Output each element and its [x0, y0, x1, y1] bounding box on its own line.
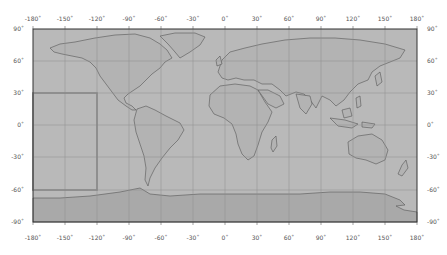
- svg-text:-30˚: -30˚: [187, 234, 200, 241]
- svg-text:60˚: 60˚: [13, 57, 24, 64]
- svg-text:-90˚: -90˚: [427, 218, 440, 225]
- svg-text:-60˚: -60˚: [155, 15, 168, 22]
- svg-text:-180˚: -180˚: [25, 15, 42, 22]
- svg-text:30˚: 30˚: [13, 89, 24, 96]
- y-labels-right: 90˚ 60˚ 30˚ 0˚ -30˚ -60˚ -90˚: [427, 25, 440, 225]
- svg-text:-60˚: -60˚: [11, 186, 24, 193]
- svg-text:150˚: 150˚: [378, 15, 392, 22]
- svg-text:-60˚: -60˚: [155, 234, 168, 241]
- svg-text:-180˚: -180˚: [25, 234, 42, 241]
- svg-text:-90˚: -90˚: [123, 15, 136, 22]
- svg-text:0˚: 0˚: [427, 121, 434, 128]
- svg-text:0˚: 0˚: [222, 234, 229, 241]
- world-map[interactable]: -180˚ -150˚ -120˚ -90˚ -60˚ -30˚ 0˚ 30˚ …: [0, 0, 447, 255]
- x-labels-top: -180˚ -150˚ -120˚ -90˚ -60˚ -30˚ 0˚ 30˚ …: [25, 15, 425, 22]
- svg-text:-60˚: -60˚: [427, 186, 440, 193]
- svg-text:90˚: 90˚: [13, 25, 24, 32]
- svg-text:60˚: 60˚: [427, 57, 438, 64]
- svg-text:60˚: 60˚: [284, 234, 295, 241]
- y-labels-left: 90˚ 60˚ 30˚ 0˚ -30˚ -60˚ -90˚: [11, 25, 24, 225]
- svg-text:-150˚: -150˚: [57, 15, 74, 22]
- svg-text:90˚: 90˚: [316, 234, 327, 241]
- svg-text:-150˚: -150˚: [57, 234, 74, 241]
- svg-text:-120˚: -120˚: [89, 15, 106, 22]
- svg-text:150˚: 150˚: [378, 234, 392, 241]
- svg-text:120˚: 120˚: [346, 15, 360, 22]
- svg-text:30˚: 30˚: [252, 234, 263, 241]
- svg-text:120˚: 120˚: [346, 234, 360, 241]
- x-labels-bottom: -180˚ -150˚ -120˚ -90˚ -60˚ -30˚ 0˚ 30˚ …: [25, 234, 425, 241]
- svg-text:30˚: 30˚: [252, 15, 263, 22]
- svg-text:90˚: 90˚: [427, 25, 438, 32]
- svg-text:-30˚: -30˚: [187, 15, 200, 22]
- svg-text:-90˚: -90˚: [11, 218, 24, 225]
- svg-text:90˚: 90˚: [316, 15, 327, 22]
- svg-text:-90˚: -90˚: [123, 234, 136, 241]
- svg-text:180˚: 180˚: [410, 234, 424, 241]
- svg-text:180˚: 180˚: [410, 15, 424, 22]
- svg-text:-120˚: -120˚: [89, 234, 106, 241]
- borneo: [342, 108, 352, 118]
- svg-text:30˚: 30˚: [427, 89, 438, 96]
- svg-text:0˚: 0˚: [17, 121, 24, 128]
- svg-text:60˚: 60˚: [284, 15, 295, 22]
- svg-text:-30˚: -30˚: [427, 153, 440, 160]
- svg-text:0˚: 0˚: [222, 15, 229, 22]
- svg-text:-30˚: -30˚: [11, 153, 24, 160]
- philippines: [356, 96, 361, 108]
